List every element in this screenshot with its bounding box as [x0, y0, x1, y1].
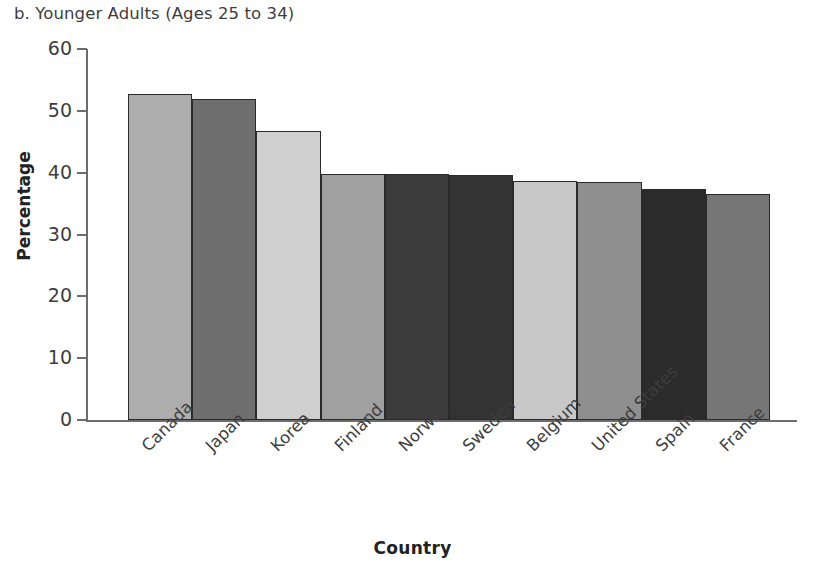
x-category-label: Japan	[202, 409, 248, 455]
x-category-label: Norway	[395, 397, 453, 455]
x-category-label: Sweden	[459, 395, 519, 455]
x-category-label: Canada	[138, 397, 196, 455]
x-axis-category-labels: CanadaJapanKoreaFinlandNorwaySwedenBelgi…	[0, 0, 825, 565]
x-category-label: Finland	[331, 400, 387, 456]
x-category-label: France	[716, 403, 769, 456]
x-category-label: Korea	[267, 409, 314, 456]
x-axis-title: Country	[0, 538, 825, 558]
x-category-label: Spain	[652, 409, 698, 455]
x-category-label: Belgium	[523, 394, 585, 456]
chart-figure: b. Younger Adults (Ages 25 to 34) 010203…	[0, 0, 825, 565]
plot-area: 0102030405060 Percentage CanadaJapanKore…	[0, 0, 825, 565]
